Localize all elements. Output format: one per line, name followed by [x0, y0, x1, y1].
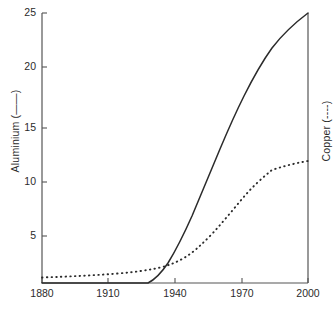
x-tick-label-1880: 1880: [22, 287, 62, 299]
y-tick-label-5: 5: [10, 229, 36, 241]
chart-plot-area: [0, 0, 336, 312]
y-tick-label-20: 20: [10, 60, 36, 72]
x-tick-label-1970: 1970: [222, 287, 262, 299]
chart-figure: Aluminium (——) Copper (----) 25 20 15 10…: [0, 0, 336, 312]
y-axis-right-title: Copper (----): [320, 76, 332, 186]
y-tick-label-15: 15: [10, 121, 36, 133]
x-tick-label-2000: 2000: [288, 287, 328, 299]
x-tick-label-1940: 1940: [155, 287, 195, 299]
series-line-copper: [42, 161, 308, 278]
y-tick-label-25: 25: [10, 6, 36, 18]
series-line-aluminium: [42, 13, 308, 283]
y-tick-label-10: 10: [10, 175, 36, 187]
y-axis-tick-marks: [42, 13, 47, 236]
x-tick-label-1910: 1910: [88, 287, 128, 299]
